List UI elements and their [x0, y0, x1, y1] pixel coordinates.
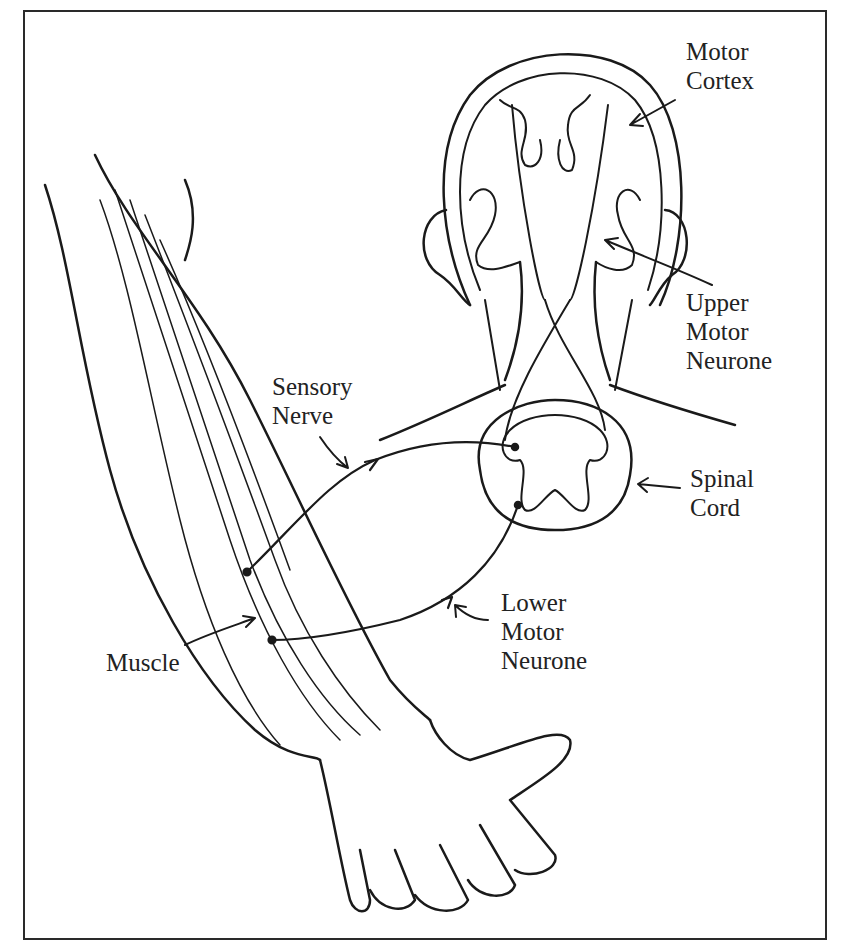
head-brain-section — [380, 54, 735, 440]
label-sensory-nerve: Sensory Nerve — [272, 372, 353, 430]
label-upper-motor-neurone: Upper Motor Neurone — [686, 288, 772, 375]
label-lower-motor-neurone: Lower Motor Neurone — [501, 588, 587, 675]
label-spinal-cord: Spinal Cord — [690, 464, 754, 522]
spinal-cord-section — [479, 400, 632, 530]
label-pointers — [185, 100, 712, 645]
label-muscle: Muscle — [106, 648, 180, 677]
label-motor-cortex: Motor Cortex — [686, 37, 754, 95]
sensory-nerve-path — [247, 442, 515, 572]
